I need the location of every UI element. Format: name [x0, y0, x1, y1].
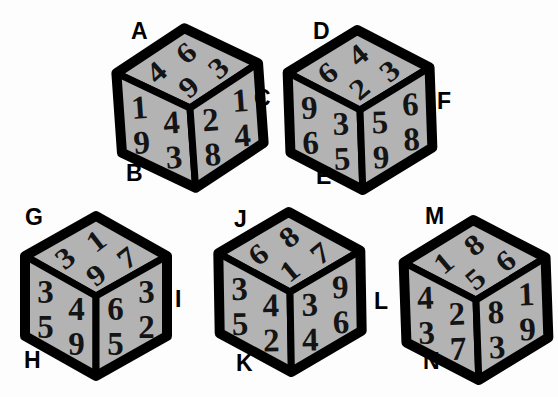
digit: 4 [262, 287, 279, 323]
digit: 5 [37, 309, 54, 345]
digit: 8 [203, 136, 222, 173]
digit: 8 [403, 121, 421, 158]
cube-label-f: F [437, 90, 451, 113]
cube-label-g: G [25, 206, 43, 229]
digit: 5 [333, 140, 351, 177]
digit: 3 [231, 271, 248, 307]
digit: 3 [164, 139, 183, 176]
cube-label-h: H [24, 349, 41, 372]
digit: 1 [231, 82, 250, 119]
digit: 4 [417, 279, 435, 316]
cube-label-l: L [374, 290, 388, 313]
digit: 2 [263, 322, 280, 358]
digit: 8 [487, 294, 505, 331]
digit: 9 [132, 124, 151, 161]
digit: 9 [519, 311, 537, 348]
digit: 2 [448, 295, 466, 332]
cube-mn: 8 6 1 5 4 2 3 7 8 1 3 9 [388, 209, 558, 391]
digit: 9 [332, 269, 349, 305]
digit: 2 [201, 101, 220, 138]
digit: 6 [107, 291, 124, 327]
cube-label-c: C [254, 87, 271, 110]
cube-label-b: B [126, 162, 143, 185]
digit: 3 [332, 105, 350, 142]
cube-label-n: N [423, 350, 440, 373]
cube-label-m: M [425, 205, 444, 228]
digit: 7 [449, 330, 467, 367]
digit: 4 [162, 104, 181, 141]
cube-label-d: D [313, 20, 330, 43]
digit: 2 [138, 309, 155, 345]
digit: 9 [372, 139, 390, 176]
cube-label-k: K [236, 352, 253, 375]
digit: 3 [37, 274, 54, 310]
digit: 3 [488, 329, 506, 366]
cube-label-e: E [316, 165, 331, 188]
digit: 5 [371, 104, 389, 141]
digit: 6 [401, 86, 419, 123]
digit: 3 [418, 314, 436, 351]
digit: 3 [138, 274, 155, 310]
digit: 4 [68, 291, 85, 327]
digit: 1 [130, 89, 149, 126]
digit: 5 [231, 306, 248, 342]
cube-label-j: J [234, 208, 247, 231]
digit: 3 [301, 287, 318, 323]
digit: 9 [68, 326, 85, 362]
cube-label-i: I [175, 288, 181, 311]
cube-def: 4 3 6 2 9 3 6 5 5 6 9 8 [272, 19, 448, 201]
digit: 6 [302, 124, 320, 161]
cube-jkl: 8 7 6 1 3 4 5 2 3 9 4 6 [203, 203, 376, 382]
digit: 4 [233, 117, 252, 154]
digit: 6 [332, 304, 349, 340]
digit: 5 [107, 326, 124, 362]
digit: 1 [517, 276, 535, 313]
cube-label-a: A [131, 20, 148, 43]
digit: 4 [302, 322, 319, 358]
digit: 9 [301, 89, 319, 126]
